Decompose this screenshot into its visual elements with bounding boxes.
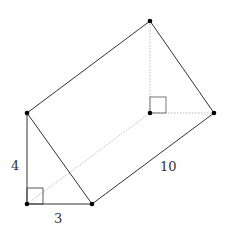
edge-top-length — [27, 21, 150, 113]
vertex-front-right-angle — [25, 202, 30, 207]
vertex-front-top — [25, 111, 30, 116]
edge-back-hypotenuse — [150, 21, 214, 113]
triangular-prism-diagram: 4 3 10 — [0, 0, 227, 245]
vertex-back-right-angle — [148, 111, 153, 116]
hidden-edges — [27, 21, 214, 204]
hidden-edge-bottom-length — [27, 113, 150, 204]
edge-front-hypotenuse — [27, 113, 92, 204]
vertex-front-base-end — [90, 202, 95, 207]
edge-base-length — [92, 113, 214, 204]
label-length: 10 — [160, 159, 177, 174]
label-height: 4 — [11, 158, 19, 173]
right-angle-marker-front — [27, 188, 43, 204]
right-angle-marker-back — [150, 97, 166, 113]
vertex-back-base-end — [212, 111, 217, 116]
visible-edges — [27, 21, 214, 204]
vertices — [25, 19, 217, 207]
label-base: 3 — [54, 211, 62, 226]
vertex-back-top — [148, 19, 153, 24]
